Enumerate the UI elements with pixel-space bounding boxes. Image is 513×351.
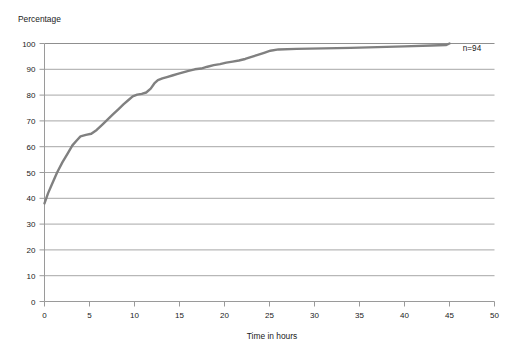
x-axis-tick-label: 30: [310, 311, 319, 320]
y-axis-tick-label: 40: [27, 194, 36, 203]
y-axis-tick-label: 90: [27, 65, 36, 74]
gridlines-group: [45, 44, 495, 276]
y-axis-tick-label: 20: [27, 246, 36, 255]
x-axis-tick-label: 0: [42, 311, 47, 320]
y-axis-tick-label: 0: [31, 298, 36, 307]
x-axis-tick-label: 25: [265, 311, 274, 320]
y-axis-ticks: [40, 44, 45, 302]
x-axis-tick-labels: 05101520253035404550: [42, 311, 499, 320]
y-axis-tick-label: 60: [27, 143, 36, 152]
x-axis-tick-label: 20: [220, 311, 229, 320]
series-group: [45, 44, 450, 204]
y-axis-title: Percentage: [18, 14, 61, 24]
series-line-cumulative-percentage: [45, 44, 450, 204]
x-axis-tick-label: 15: [175, 311, 184, 320]
y-axis-tick-label: 80: [27, 91, 36, 100]
y-axis-tick-label: 70: [27, 117, 36, 126]
line-chart: 0102030405060708090100 05101520253035404…: [0, 0, 513, 351]
x-axis-title: Time in hours: [247, 331, 297, 341]
x-axis-tick-label: 10: [130, 311, 139, 320]
y-axis-tick-label: 10: [27, 272, 36, 281]
x-axis-tick-label: 50: [490, 311, 499, 320]
sample-size: n=94: [463, 44, 482, 53]
x-axis-group: 05101520253035404550: [42, 302, 499, 320]
y-axis-group: 0102030405060708090100: [22, 40, 44, 307]
y-axis-tick-label: 100: [22, 40, 36, 49]
x-axis-tick-label: 40: [400, 311, 409, 320]
y-axis-tick-labels: 0102030405060708090100: [22, 40, 36, 307]
y-axis-tick-label: 50: [27, 169, 36, 178]
x-axis-ticks: [45, 302, 495, 307]
x-axis-tick-label: 45: [445, 311, 454, 320]
chart-container: 0102030405060708090100 05101520253035404…: [0, 0, 513, 351]
chart-annotations: n=94: [463, 44, 482, 53]
x-axis-tick-label: 5: [87, 311, 92, 320]
y-axis-tick-label: 30: [27, 220, 36, 229]
x-axis-tick-label: 35: [355, 311, 364, 320]
